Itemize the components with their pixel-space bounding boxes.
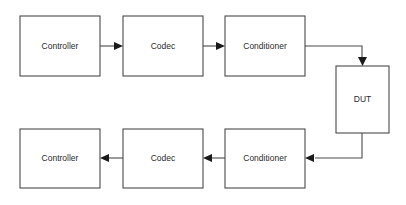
arrow-head-down-icon — [358, 57, 367, 66]
node-dut[interactable]: DUT — [336, 66, 389, 133]
edge-codec-to-controller-bottom — [100, 154, 123, 162]
node-codec-top-label: Codec — [151, 41, 176, 51]
arrow-head-left-icon — [203, 154, 212, 162]
node-controller-top[interactable]: Controller — [20, 16, 100, 76]
node-conditioner-bottom-label: Conditioner — [243, 153, 287, 163]
node-codec-bottom[interactable]: Codec — [123, 129, 203, 188]
node-conditioner-bottom[interactable]: Conditioner — [225, 129, 305, 188]
node-controller-top-label: Controller — [42, 41, 79, 51]
node-conditioner-top-label: Conditioner — [243, 41, 287, 51]
edge-conditioner-to-dut — [305, 46, 367, 66]
edge-dut-to-conditioner-bottom — [305, 133, 362, 162]
edge-conditioner-to-dut-line — [305, 46, 362, 61]
block-diagram: Controller Codec Conditioner DUT Control… — [0, 0, 406, 205]
node-codec-bottom-label: Codec — [151, 153, 176, 163]
node-controller-bottom[interactable]: Controller — [20, 129, 100, 188]
arrow-head-right-icon — [216, 42, 225, 50]
arrow-head-left-icon — [305, 154, 314, 162]
arrow-head-left-icon — [100, 154, 109, 162]
edge-controller-to-codec-top — [100, 42, 123, 50]
diagram-canvas: Controller Codec Conditioner DUT Control… — [0, 0, 406, 205]
arrow-head-right-icon — [114, 42, 123, 50]
edge-codec-to-conditioner-top — [203, 42, 225, 50]
node-codec-top[interactable]: Codec — [123, 16, 203, 76]
node-controller-bottom-label: Controller — [42, 153, 79, 163]
node-conditioner-top[interactable]: Conditioner — [225, 16, 305, 76]
edge-conditioner-to-codec-bottom — [203, 154, 225, 162]
edge-dut-to-conditioner-bottom-line — [315, 133, 362, 158]
node-dut-label: DUT — [354, 94, 371, 104]
